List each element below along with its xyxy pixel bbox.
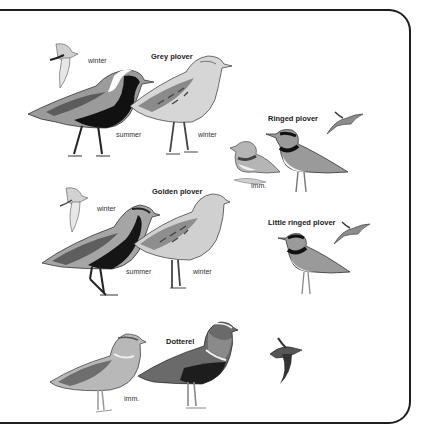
little-ringed-plover-illustration	[278, 232, 352, 300]
grey-plover-winter-flight-label: winter	[88, 57, 107, 64]
grey-plover-winter-label: winter	[198, 131, 217, 138]
golden-plover-winter-label: winter	[193, 268, 212, 275]
ringed-plover-title: Ringed plover	[268, 114, 318, 123]
ringed-plover-immature-label: imm.	[251, 182, 266, 189]
grey-plover-winter-illustration	[128, 54, 232, 158]
dotterel-adult-illustration	[136, 320, 238, 416]
golden-plover-winter-illustration	[132, 190, 230, 292]
dotterel-flight-illustration	[268, 336, 304, 386]
ringed-plover-adult-illustration	[266, 128, 350, 198]
dotterel-immature-illustration	[48, 330, 146, 416]
little-ringed-plover-title: Little ringed plover	[268, 218, 336, 227]
field-guide-plate: winter Grey plover summer winter Ringed …	[0, 0, 431, 442]
